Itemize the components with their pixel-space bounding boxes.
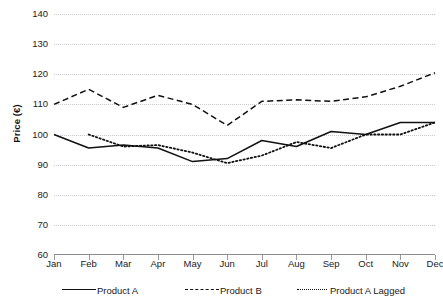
legend-item-product-b[interactable]: Product B — [185, 285, 262, 296]
y-tick-label: 100 — [22, 130, 48, 140]
y-tick-label: 80 — [22, 190, 48, 200]
x-tick-label-sep: Sep — [323, 258, 340, 269]
y-axis-title: Price (€) — [11, 84, 22, 164]
x-axis-tick-labels: JanFebMarAprMayJunJulAugSepOctNovDec — [54, 258, 435, 274]
legend-item-product-a-lagged[interactable]: Product A Lagged — [295, 285, 405, 296]
y-tick-label: 120 — [22, 69, 48, 79]
y-tick-label: 60 — [22, 250, 48, 260]
x-tick-label-dec: Dec — [427, 258, 443, 269]
y-axis-tick-labels: 14013012011010090807060 — [22, 0, 48, 307]
x-tick-label-jan: Jan — [46, 258, 61, 269]
y-tick-label: 140 — [22, 9, 48, 19]
x-tick-label-mar: Mar — [115, 258, 131, 269]
x-tick-label-oct: Oct — [358, 258, 373, 269]
y-tick-label: 110 — [22, 99, 48, 109]
series-layer — [54, 14, 435, 255]
x-tick-label-may: May — [184, 258, 202, 269]
x-tick-label-aug: Aug — [288, 258, 305, 269]
y-tick-label: 130 — [22, 39, 48, 49]
x-tick-label-feb: Feb — [80, 258, 96, 269]
y-tick-label: 90 — [22, 160, 48, 170]
x-tick-label-apr: Apr — [151, 258, 166, 269]
series-line-product-b — [54, 73, 435, 126]
dashed-line-key — [185, 286, 219, 294]
plot-area — [54, 14, 435, 255]
y-tick-label: 70 — [22, 220, 48, 230]
x-tick-label-jul: Jul — [256, 258, 268, 269]
x-axis-line — [54, 254, 435, 255]
legend-item-product-a[interactable]: Product A — [62, 285, 138, 296]
chart-legend: Product AProduct BProduct A Lagged — [0, 281, 441, 299]
dotted-line-key — [295, 286, 329, 294]
legend-label: Product B — [219, 285, 262, 296]
legend-label: Product A Lagged — [329, 285, 405, 296]
solid-line-key — [62, 286, 96, 294]
x-tick-label-jun: Jun — [220, 258, 235, 269]
x-tick-label-nov: Nov — [392, 258, 409, 269]
legend-label: Product A — [96, 285, 138, 296]
